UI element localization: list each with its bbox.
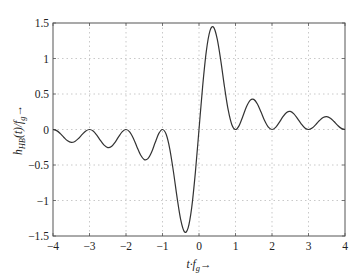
y-tick-label: −0.5 [28, 159, 49, 171]
x-tick-labels: −4−3−2−101234 [47, 240, 348, 252]
y-tick-label: 0.5 [35, 88, 50, 100]
y-tick-labels: −1.5−1−0.500.511.5 [28, 17, 49, 242]
line-chart: −4−3−2−101234 −1.5−1−0.500.511.5 t·fg→ h… [0, 0, 364, 279]
x-tick-label: 3 [306, 240, 312, 252]
y-tick-label: −1.5 [28, 230, 49, 242]
y-tick-label: 0 [43, 124, 49, 136]
x-axis-label: t·fg→ [186, 258, 211, 273]
y-tick-label: 1.5 [35, 17, 50, 29]
y-tick-label: −1 [37, 195, 49, 207]
x-tick-label: 0 [196, 240, 202, 252]
y-tick-label: 1 [43, 53, 49, 65]
x-tick-label: 2 [269, 240, 275, 252]
x-tick-label: 4 [342, 240, 348, 252]
y-axis-label: hHB(t)/fg→ [12, 105, 27, 155]
x-tick-label: −2 [120, 240, 132, 252]
x-tick-label: 1 [233, 240, 239, 252]
x-tick-label: −3 [83, 240, 95, 252]
x-tick-label: −1 [156, 240, 168, 252]
